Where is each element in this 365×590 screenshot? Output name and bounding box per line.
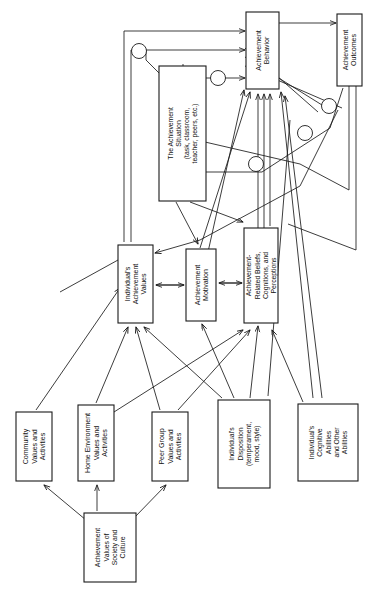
- figure-canvas: AchievementBehaviorAchievementOutcomesTh…: [0, 0, 365, 590]
- edge-situation-top-stub: [146, 50, 159, 73]
- node-label-line: Values and: [167, 429, 175, 464]
- node-label-line: Achievement: [255, 30, 263, 71]
- node-label-line: Society and: [111, 530, 119, 566]
- node-label-line: Values: [140, 273, 148, 294]
- edge-peer-to-beliefs: [178, 330, 250, 410]
- edge-outcomes-feedback-3: [288, 86, 356, 250]
- node-achievement-outcomes[interactable]: AchievementOutcomes: [337, 14, 362, 86]
- crossover-marker-1: [132, 44, 147, 59]
- edge-society-to-community: [44, 485, 86, 520]
- node-label-line: Individual's: [308, 425, 315, 459]
- node-label-line: Situation: [175, 120, 182, 147]
- edge-society-to-peer: [134, 485, 166, 518]
- node-label-line: Individual's: [124, 266, 132, 301]
- edge-disposition-to-motivation: [202, 324, 234, 398]
- edge-values-left-rail: [60, 260, 118, 292]
- node-achievement-situation[interactable]: The AchievementSituation(task, classroom…: [159, 66, 206, 201]
- node-home-environment[interactable]: Home EnvironmentValues andActivities: [78, 405, 114, 481]
- node-label-line: Disposition: [237, 427, 245, 460]
- node-label-line: (task, classroom,: [183, 108, 191, 159]
- node-label-line: Values and: [31, 429, 39, 464]
- edge-situation-to-beliefs: [190, 202, 243, 222]
- edge-cognitive-to-behavior2: [285, 96, 322, 398]
- node-label-line: Culture: [119, 536, 126, 558]
- edge-peer-to-values: [136, 327, 160, 410]
- node-label-line: Achievement: [342, 30, 350, 71]
- node-label-line: Cognitions, and: [262, 252, 270, 299]
- node-label-line: Community: [22, 428, 30, 464]
- node-label-line: (temperament,: [245, 422, 253, 466]
- edge-community-to-values: [36, 288, 120, 410]
- node-label-line: Activities: [39, 432, 47, 460]
- crossover-marker-5: [249, 157, 264, 172]
- node-label-line: Abilities: [341, 430, 348, 454]
- node-label: Peer GroupValues andActivities: [158, 428, 182, 464]
- node-label: AchievementOutcomes: [342, 30, 358, 71]
- node-label-line: Activities: [101, 429, 109, 457]
- node-label: Achievement-Related Beliefs,Cognitions, …: [245, 252, 278, 300]
- node-achievement-related-beliefs[interactable]: Achievement-Related Beliefs,Cognitions, …: [244, 228, 278, 323]
- edge-home-to-values: [96, 327, 128, 403]
- node-individuals-achievement-values[interactable]: Individual'sAchievementValues: [118, 245, 153, 323]
- crossover-marker-3: [322, 99, 337, 114]
- edge-situation-to-motivation: [176, 202, 198, 244]
- node-label-line: Individual's: [228, 427, 235, 461]
- edge-beliefs-to-behavior-fan2: [200, 92, 250, 248]
- node-label-line: Cognitive: [316, 428, 324, 456]
- node-achievement-values-society[interactable]: AchievementValues ofSociety andCulture: [84, 513, 136, 582]
- node-individuals-cognitive-abilities[interactable]: Individual'sCognitiveAbilitiesand OtherA…: [298, 404, 358, 481]
- node-label-line: Achievement: [132, 264, 140, 305]
- node-peer-group[interactable]: Peer GroupValues andActivities: [152, 412, 188, 481]
- node-label: The AchievementSituation(task, classroom…: [167, 104, 200, 164]
- node-label: Individual'sDisposition(temperament,mood…: [228, 422, 261, 466]
- node-label-line: and Other: [333, 427, 340, 458]
- node-label-line: Peer Group: [158, 428, 166, 464]
- crossover-marker-4: [298, 126, 313, 141]
- achievement-model-diagram: AchievementBehaviorAchievementOutcomesTh…: [0, 0, 365, 590]
- node-label-line: Perceptions: [270, 257, 278, 293]
- edge-beliefs-to-behavior-fan1: [208, 90, 244, 252]
- edge-disposition-to-values: [144, 327, 222, 398]
- edge-disposition-to-beliefs: [250, 326, 258, 398]
- node-label-line: teacher, peers, etc.): [191, 104, 199, 164]
- node-community-values[interactable]: CommunityValues andActivities: [16, 412, 52, 481]
- node-label-line: Activities: [175, 432, 183, 460]
- node-label: CommunityValues andActivities: [22, 428, 46, 464]
- node-achievement-behavior[interactable]: AchievementBehavior: [246, 12, 279, 89]
- node-label-line: Values of: [103, 533, 110, 561]
- crossover-marker-2: [211, 71, 226, 86]
- node-label-line: Values and: [93, 426, 101, 461]
- node-label: AchievementMotivation: [194, 265, 210, 306]
- node-individuals-disposition[interactable]: Individual'sDisposition(temperament,mood…: [218, 400, 270, 488]
- node-label-line: Home Environment: [84, 413, 92, 473]
- node-label-line: Achievement: [94, 528, 101, 567]
- node-label-line: Achievement-: [245, 255, 252, 297]
- edge-outcomes-feedback-2: [205, 88, 343, 172]
- node-label-line: Achievement: [194, 265, 202, 306]
- node-label-line: The Achievement: [167, 107, 174, 160]
- node-label-line: Motivation: [202, 269, 210, 301]
- node-label-line: Abilities: [325, 430, 332, 454]
- node-achievement-motivation[interactable]: AchievementMotivation: [186, 249, 216, 321]
- node-label-line: Related Beliefs,: [254, 252, 261, 300]
- node-label-line: mood, style): [253, 426, 261, 463]
- node-label-line: Outcomes: [350, 34, 358, 66]
- node-label-line: Behavior: [263, 36, 271, 64]
- edge-cognitive-to-beliefs: [272, 330, 303, 402]
